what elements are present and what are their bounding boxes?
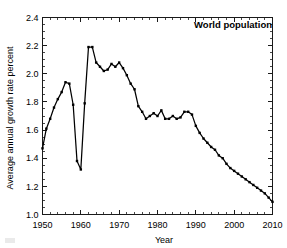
- y-tick-label: 1.4: [26, 153, 39, 163]
- data-point-marker: [83, 102, 85, 104]
- data-point-marker: [179, 116, 181, 118]
- cropped-caption-fragment: [5, 238, 15, 243]
- data-point-marker: [218, 154, 220, 156]
- data-point-marker: [271, 201, 273, 203]
- data-point-marker: [49, 118, 51, 120]
- data-point-marker: [160, 109, 162, 111]
- x-axis-title: Year: [155, 235, 173, 245]
- y-tick-label: 1.8: [26, 97, 39, 107]
- x-tick-label: 1960: [71, 220, 91, 230]
- data-point-marker: [233, 170, 235, 172]
- x-tick-label: 1950: [32, 220, 52, 230]
- data-point-marker: [72, 104, 74, 106]
- data-point-marker: [53, 106, 55, 108]
- data-point-marker: [118, 61, 120, 63]
- data-point-marker: [206, 142, 208, 144]
- data-point-marker: [91, 46, 93, 48]
- data-point-marker: [60, 91, 62, 93]
- data-point-marker: [164, 118, 166, 120]
- data-point-marker: [252, 184, 254, 186]
- data-point-marker: [45, 127, 47, 129]
- data-point-marker: [152, 112, 154, 114]
- data-point-marker: [137, 105, 139, 107]
- y-tick-label: 1.0: [26, 210, 39, 220]
- x-tick-label: 1990: [186, 220, 206, 230]
- data-point-marker: [41, 147, 43, 149]
- data-series-group: [41, 46, 273, 203]
- data-point-marker: [225, 163, 227, 165]
- data-point-marker: [99, 66, 101, 68]
- data-point-marker: [202, 137, 204, 139]
- chart-figure: 1950196019701980199020002010 1.01.21.41.…: [0, 0, 287, 248]
- x-tick-label: 1970: [109, 220, 129, 230]
- data-point-marker: [172, 115, 174, 117]
- data-point-marker: [195, 125, 197, 127]
- data-point-marker: [210, 146, 212, 148]
- data-point-marker: [260, 189, 262, 191]
- data-point-marker: [244, 178, 246, 180]
- series-line-world-population: [43, 47, 273, 202]
- series-markers: [41, 46, 273, 203]
- data-point-marker: [237, 172, 239, 174]
- data-point-marker: [229, 167, 231, 169]
- data-point-marker: [241, 175, 243, 177]
- y-tick-label: 1.6: [26, 125, 39, 135]
- y-tick-label: 2.4: [26, 13, 39, 23]
- data-point-marker: [141, 111, 143, 113]
- data-point-marker: [248, 181, 250, 183]
- data-point-marker: [221, 157, 223, 159]
- data-point-marker: [110, 63, 112, 65]
- data-point-marker: [149, 115, 151, 117]
- data-point-marker: [68, 82, 70, 84]
- data-point-marker: [64, 81, 66, 83]
- data-point-marker: [264, 192, 266, 194]
- data-point-marker: [133, 88, 135, 90]
- plot-annotation-label: World population: [194, 19, 272, 30]
- x-tick-label: 1980: [147, 220, 167, 230]
- y-tick-label: 2.0: [26, 69, 39, 79]
- data-point-marker: [126, 74, 128, 76]
- growth-rate-line-chart: 1950196019701980199020002010 1.01.21.41.…: [0, 0, 287, 248]
- data-point-marker: [256, 187, 258, 189]
- data-point-marker: [106, 68, 108, 70]
- data-point-marker: [76, 160, 78, 162]
- data-point-marker: [114, 66, 116, 68]
- data-point-marker: [95, 61, 97, 63]
- data-point-marker: [129, 82, 131, 84]
- data-point-marker: [156, 115, 158, 117]
- data-point-marker: [122, 67, 124, 69]
- data-point-marker: [198, 132, 200, 134]
- x-tick-label: 2000: [224, 220, 244, 230]
- data-point-marker: [183, 111, 185, 113]
- y-tick-label: 1.2: [26, 182, 39, 192]
- data-point-marker: [187, 111, 189, 113]
- x-axis-tick-labels: 1950196019701980199020002010: [32, 220, 282, 230]
- data-point-marker: [214, 149, 216, 151]
- data-point-marker: [175, 118, 177, 120]
- y-tick-label: 2.2: [26, 41, 39, 51]
- data-point-marker: [168, 118, 170, 120]
- data-point-marker: [267, 196, 269, 198]
- data-point-marker: [103, 70, 105, 72]
- data-point-marker: [80, 168, 82, 170]
- data-point-marker: [191, 113, 193, 115]
- data-point-marker: [57, 98, 59, 100]
- x-tick-label: 2010: [262, 220, 282, 230]
- y-axis-tick-labels: 1.01.21.41.61.82.02.22.4: [26, 13, 39, 220]
- data-point-marker: [87, 46, 89, 48]
- data-point-marker: [145, 118, 147, 120]
- y-axis-title: Average annual growth rate percent: [5, 46, 15, 189]
